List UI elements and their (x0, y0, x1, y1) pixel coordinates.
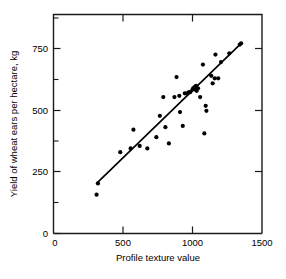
data-point (211, 81, 215, 85)
data-point (202, 131, 206, 135)
data-point (227, 51, 231, 55)
y-axis-title: Yield of wheat ears per hectare, kg (8, 51, 19, 197)
x-axis-title: Profile texture value (116, 252, 200, 263)
data-point (181, 124, 185, 128)
y-tick-label-750: 750 (32, 43, 48, 54)
data-point (204, 109, 208, 113)
scatter-chart-figure: 0 250 500 750 0 500 1000 1500 Profile te… (0, 0, 286, 279)
data-point (145, 146, 149, 150)
data-point (196, 86, 200, 90)
data-point (204, 104, 208, 108)
data-point (96, 181, 100, 185)
data-point (118, 150, 122, 154)
y-tick-label-0: 0 (43, 228, 48, 239)
data-point (198, 95, 202, 99)
data-point (131, 128, 135, 132)
x-tick-label-500: 500 (115, 237, 131, 248)
data-point (216, 76, 220, 80)
data-point (209, 74, 213, 78)
x-tick-label-1500: 1500 (251, 237, 272, 248)
right-spine-ticks (255, 49, 262, 172)
y-tick-label-250: 250 (32, 166, 48, 177)
data-point (167, 141, 171, 145)
regression-line (97, 43, 242, 183)
data-point (174, 75, 178, 79)
data-point-layer (94, 41, 243, 197)
data-point (172, 95, 176, 99)
data-point (213, 52, 217, 56)
data-point (177, 94, 181, 98)
y-tick-label-500: 500 (32, 105, 48, 116)
data-point (94, 193, 98, 197)
data-point (163, 125, 167, 129)
data-point (138, 144, 142, 148)
data-point (129, 146, 133, 150)
data-point (158, 114, 162, 118)
data-point (154, 135, 158, 139)
x-tick-label-1000: 1000 (182, 237, 203, 248)
plot-svg: 0 250 500 750 0 500 1000 1500 Profile te… (0, 0, 286, 279)
data-point (201, 62, 205, 66)
data-point (219, 60, 223, 64)
data-point (239, 41, 243, 45)
data-point (178, 110, 182, 114)
data-point (161, 95, 165, 99)
x-tick-label-0: 0 (52, 237, 57, 248)
